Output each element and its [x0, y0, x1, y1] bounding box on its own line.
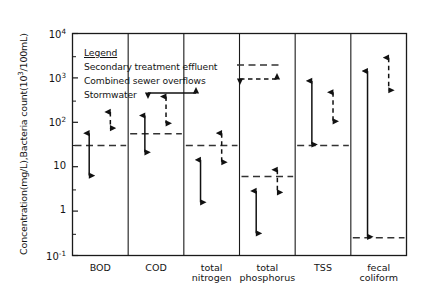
plot-canvas — [0, 0, 424, 304]
legend-symbols-group — [148, 65, 281, 93]
plot-frame — [73, 34, 407, 256]
chart-figure: Concentration(mg/L),Bacteria count(103/1… — [0, 0, 424, 304]
